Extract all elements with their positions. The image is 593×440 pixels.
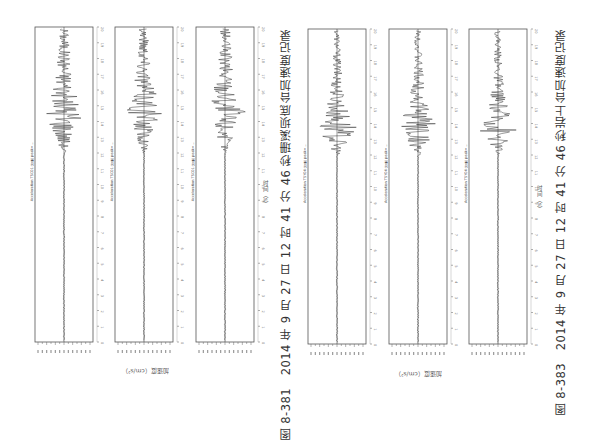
svg-text:5: 5 <box>180 263 184 265</box>
svg-text:4: 4 <box>534 281 538 284</box>
svg-text:13: 13 <box>534 139 538 143</box>
svg-text:1: 1 <box>261 326 265 328</box>
svg-text:2: 2 <box>373 313 377 315</box>
svg-text:5: 5 <box>534 265 538 267</box>
svg-text:7: 7 <box>100 232 104 234</box>
svg-text:19: 19 <box>100 43 104 47</box>
svg-text:3: 3 <box>534 297 538 299</box>
svg-text:15: 15 <box>100 106 104 110</box>
svg-text:16: 16 <box>373 92 377 96</box>
svg-text:20: 20 <box>454 29 458 33</box>
svg-text:14: 14 <box>373 124 377 129</box>
svg-text:7: 7 <box>373 234 377 236</box>
x-axis-label-g2: 时间（s） <box>536 185 544 212</box>
svg-text:19: 19 <box>180 43 184 47</box>
svg-text:11: 11 <box>454 171 458 175</box>
svg-text:14: 14 <box>180 122 184 127</box>
svg-text:15: 15 <box>373 108 377 112</box>
svg-text:20: 20 <box>373 29 377 33</box>
svg-text:1: 1 <box>373 328 377 330</box>
svg-text:14: 14 <box>261 122 265 127</box>
panel-title: Acceleration TSC01 分量 peak=… <box>109 142 114 201</box>
waveform-panel-g2-p2: 01234567891011121314151617181920Accelera… <box>389 29 451 344</box>
svg-text:3: 3 <box>261 295 265 297</box>
svg-text:20: 20 <box>261 27 265 31</box>
svg-text:14: 14 <box>454 124 458 129</box>
svg-text:10: 10 <box>373 187 377 191</box>
svg-text:20: 20 <box>180 27 184 31</box>
waveform-panel-g2-p1: 01234567891011121314151617181920Accelera… <box>308 29 370 344</box>
svg-text:5: 5 <box>373 265 377 267</box>
svg-text:0: 0 <box>373 344 377 346</box>
acceleration-trace <box>320 31 356 342</box>
svg-text:9: 9 <box>454 202 458 204</box>
waveform-svg: 01234567891011121314151617181920 <box>196 27 272 364</box>
svg-text:4: 4 <box>180 279 184 282</box>
panel-title: Acceleration TSY04 分量 peak=… <box>383 144 388 203</box>
figure-caption-8-381: 图 8-381 2014 年 9 月 27 日 12 时 41 分 46 秒珊溪… <box>278 28 294 440</box>
waveform-svg: 01234567891011121314151617181920 <box>308 29 384 366</box>
svg-text:16: 16 <box>100 90 104 94</box>
svg-text:17: 17 <box>100 74 104 78</box>
svg-text:8: 8 <box>534 218 538 220</box>
svg-text:16: 16 <box>534 92 538 96</box>
acceleration-trace <box>127 29 161 340</box>
svg-text:3: 3 <box>373 297 377 299</box>
svg-text:2: 2 <box>454 313 458 315</box>
svg-text:9: 9 <box>100 200 104 202</box>
svg-text:2: 2 <box>180 311 184 313</box>
waveform-svg: 01234567891011121314151617181920 <box>35 27 111 364</box>
svg-text:16: 16 <box>180 90 184 94</box>
svg-text:19: 19 <box>454 45 458 49</box>
svg-text:0: 0 <box>100 342 104 344</box>
svg-text:6: 6 <box>100 248 104 250</box>
svg-text:14: 14 <box>100 122 104 127</box>
svg-text:4: 4 <box>100 279 104 282</box>
svg-text:6: 6 <box>180 248 184 250</box>
svg-text:13: 13 <box>454 139 458 143</box>
svg-text:3: 3 <box>100 295 104 297</box>
svg-text:11: 11 <box>100 169 104 173</box>
svg-text:4: 4 <box>454 281 458 284</box>
svg-text:12: 12 <box>100 153 104 157</box>
svg-text:0: 0 <box>180 342 184 344</box>
svg-text:18: 18 <box>534 61 538 65</box>
waveform-panel-g1-p1: 01234567891011121314151617181920Accelera… <box>35 27 97 342</box>
svg-text:18: 18 <box>180 59 184 63</box>
acceleration-trace <box>212 29 246 340</box>
svg-text:16: 16 <box>261 90 265 94</box>
svg-text:5: 5 <box>454 265 458 267</box>
svg-text:12: 12 <box>373 155 377 159</box>
svg-text:19: 19 <box>373 45 377 49</box>
acceleration-trace <box>402 31 436 342</box>
svg-text:0: 0 <box>534 344 538 346</box>
svg-text:11: 11 <box>534 171 538 175</box>
svg-text:3: 3 <box>454 297 458 299</box>
svg-text:5: 5 <box>261 263 265 265</box>
svg-text:13: 13 <box>180 137 184 141</box>
svg-text:1: 1 <box>100 326 104 328</box>
svg-text:15: 15 <box>454 108 458 112</box>
waveform-panel-g2-p3: 01234567891011121314151617181920Accelera… <box>469 29 531 344</box>
svg-text:6: 6 <box>534 250 538 252</box>
svg-text:11: 11 <box>180 169 184 173</box>
svg-text:18: 18 <box>454 61 458 65</box>
svg-text:9: 9 <box>180 200 184 202</box>
svg-text:18: 18 <box>100 59 104 63</box>
svg-text:17: 17 <box>454 76 458 80</box>
panel-title: Acceleration TSY04 分量 peak=… <box>302 144 307 203</box>
svg-text:18: 18 <box>373 61 377 65</box>
svg-text:0: 0 <box>454 344 458 346</box>
svg-text:17: 17 <box>534 76 538 80</box>
waveform-svg: 01234567891011121314151617181920 <box>389 29 465 366</box>
svg-text:0: 0 <box>261 342 265 344</box>
svg-text:2: 2 <box>534 313 538 315</box>
waveform-svg: 01234567891011121314151617181920 <box>469 29 545 366</box>
svg-text:2: 2 <box>261 311 265 313</box>
svg-text:9: 9 <box>373 202 377 204</box>
svg-text:7: 7 <box>261 232 265 234</box>
svg-text:7: 7 <box>534 234 538 236</box>
svg-text:8: 8 <box>100 216 104 218</box>
svg-text:8: 8 <box>180 216 184 218</box>
svg-text:8: 8 <box>261 216 265 218</box>
